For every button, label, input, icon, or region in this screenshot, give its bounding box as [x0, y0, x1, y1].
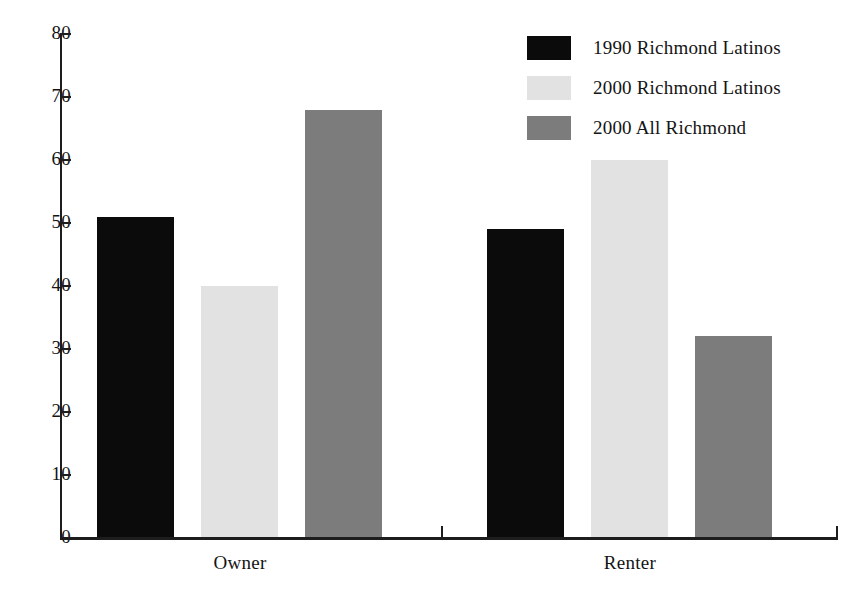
- y-axis-tick-mark: [60, 222, 71, 224]
- legend-swatch-black: [527, 36, 571, 60]
- bar-chart: 80706050403020100 Owner Renter 1990 Rich…: [0, 0, 855, 597]
- y-axis-tick-mark: [60, 159, 71, 161]
- x-axis-tick-end: [836, 526, 838, 538]
- x-axis-label-owner: Owner: [170, 552, 310, 574]
- bar-renter-series-3: [695, 336, 772, 538]
- y-axis-tick-mark: [60, 411, 71, 413]
- bar-owner-series-2: [201, 286, 278, 538]
- y-axis-tick-40: 40: [0, 285, 71, 287]
- chart-legend: 1990 Richmond Latinos 2000 Richmond Lati…: [527, 28, 847, 148]
- bar-owner-series-1: [97, 217, 174, 538]
- legend-label-2000-richmond-latinos: 2000 Richmond Latinos: [593, 77, 781, 99]
- bar-renter-series-1: [487, 229, 564, 538]
- legend-swatch-medium-gray: [527, 116, 571, 140]
- y-axis-tick-20: 20: [0, 411, 71, 413]
- y-axis-tick-10: 10: [0, 474, 71, 476]
- bar-renter-series-2: [591, 160, 668, 538]
- y-axis-tick-mark: [60, 285, 71, 287]
- legend-swatch-light-gray: [527, 76, 571, 100]
- legend-item-2000-richmond-latinos: 2000 Richmond Latinos: [527, 68, 847, 108]
- y-axis-tick-30: 30: [0, 348, 71, 350]
- legend-label-1990-richmond-latinos: 1990 Richmond Latinos: [593, 37, 781, 59]
- y-axis-tick-50: 50: [0, 222, 71, 224]
- x-axis-label-renter: Renter: [560, 552, 700, 574]
- x-axis-tick-separator: [441, 526, 443, 538]
- y-axis-tick-mark: [60, 96, 71, 98]
- y-axis-tick-60: 60: [0, 159, 71, 161]
- y-axis-tick-80: 80: [0, 33, 71, 35]
- legend-item-1990-richmond-latinos: 1990 Richmond Latinos: [527, 28, 847, 68]
- x-axis-line: [60, 537, 838, 540]
- y-axis-tick-70: 70: [0, 96, 71, 98]
- y-axis-tick-mark: [60, 33, 71, 35]
- y-axis-tick-mark: [60, 348, 71, 350]
- y-axis-tick-mark: [60, 474, 71, 476]
- legend-label-2000-all-richmond: 2000 All Richmond: [593, 117, 746, 139]
- legend-item-2000-all-richmond: 2000 All Richmond: [527, 108, 847, 148]
- bar-owner-series-3: [305, 110, 382, 538]
